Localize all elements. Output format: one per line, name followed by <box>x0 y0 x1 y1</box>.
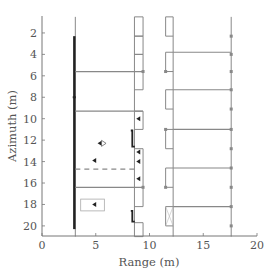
target-box <box>81 199 105 211</box>
target-triangle <box>136 176 140 181</box>
marker-square <box>230 224 233 227</box>
target-outline-triangle <box>102 140 107 146</box>
marker-square <box>230 147 233 150</box>
right-inner-bump <box>166 129 174 148</box>
middle-wall-bump <box>134 111 143 129</box>
right-inner-bump <box>166 17 174 36</box>
x-tick-label: 0 <box>39 239 46 252</box>
y-axis-label: Azimuth (m) <box>5 90 19 163</box>
middle-wall-bump <box>134 36 143 54</box>
target-dot <box>73 96 76 98</box>
right-inner-bump <box>166 90 174 109</box>
target-triangle <box>136 116 140 121</box>
marker-square <box>164 70 167 73</box>
x-tick-label: 15 <box>196 239 210 252</box>
y-tick-label: 6 <box>30 70 37 83</box>
target-triangle <box>98 141 102 146</box>
marker-square <box>230 186 233 189</box>
x-tick-label: 10 <box>143 239 157 252</box>
y-tick-label: 10 <box>23 113 37 126</box>
y-tick-label: 12 <box>23 134 37 147</box>
marker-square <box>230 108 233 111</box>
y-tick-label: 16 <box>23 177 37 190</box>
target-triangle <box>136 159 140 164</box>
y-tick-label: 4 <box>30 48 37 61</box>
x-tick-label: 20 <box>250 239 264 252</box>
marker-square <box>164 128 167 131</box>
diagram-canvas: 05101520 2468101214161820 Range (m) Azim… <box>0 0 275 274</box>
marker-square <box>164 186 167 189</box>
marker-square <box>230 53 233 56</box>
x-tick-label: 5 <box>92 239 99 252</box>
y-tick-label: 8 <box>30 91 37 104</box>
marker-square <box>142 186 145 189</box>
right-inner-bump <box>166 52 174 71</box>
radar-scene-diagram: 05101520 2468101214161820 Range (m) Azim… <box>0 0 275 274</box>
x-axis-label: Range (m) <box>119 255 180 269</box>
marker-square <box>230 35 233 38</box>
target-triangle <box>136 149 140 154</box>
target-triangle <box>92 158 96 163</box>
y-tick-label: 18 <box>23 198 37 211</box>
marker-square <box>230 70 233 73</box>
y-tick-label: 2 <box>30 27 37 40</box>
y-tick-label: 20 <box>23 220 37 233</box>
marker-square <box>142 70 145 73</box>
middle-wall-bump <box>134 17 143 36</box>
target-triangle <box>92 202 96 207</box>
right-inner-bump <box>166 168 174 187</box>
plot-area <box>73 17 233 237</box>
middle-wall-bump <box>134 223 143 237</box>
y-tick-label: 14 <box>23 156 37 169</box>
